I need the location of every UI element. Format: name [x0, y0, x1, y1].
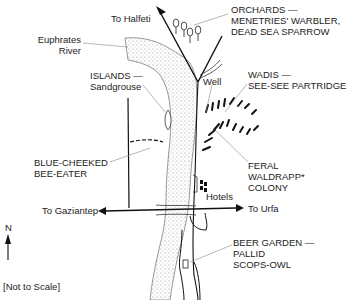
label-orchards-1: ORCHARDS —	[231, 4, 298, 15]
label-beer-garden-2: PALLID	[233, 248, 265, 259]
arrow-halfeti-icon	[156, 6, 166, 15]
label-bee-eater-2: BEE-EATER	[34, 168, 87, 179]
road-west-bank	[128, 98, 129, 208]
label-waldrapp-1: FERAL	[248, 160, 279, 171]
label-to-halfeti: To Halfeti	[111, 13, 151, 24]
island	[165, 110, 171, 130]
label-orchards-3: DEAD SEA SPARROW	[231, 26, 330, 37]
wadi-marks	[203, 98, 258, 150]
label-scale-note: [Not to Scale]	[3, 281, 60, 292]
label-river-1: Euphrates	[34, 34, 81, 45]
label-hotels: Hotels	[206, 191, 233, 202]
label-waldrapp-2: WALDRAPP*	[248, 171, 305, 182]
label-to-gaziantep: To Gaziantep	[42, 205, 98, 216]
label-north: N	[5, 222, 12, 233]
label-river-2: River	[34, 45, 81, 56]
label-wadis-2: SEE-SEE PARTRIDGE	[248, 80, 346, 91]
orchard-tree-icons	[173, 19, 201, 43]
label-bee-eater-1: BLUE-CHEEKED	[34, 157, 108, 168]
cliff-dashed	[130, 140, 163, 142]
beer-garden-building	[183, 260, 188, 268]
north-arrow-icon	[5, 234, 11, 244]
label-beer-garden-1: BEER GARDEN —	[233, 237, 314, 248]
label-islands-1: ISLANDS —	[90, 70, 143, 81]
arrow-gaziantep-icon	[98, 207, 106, 215]
label-wadis-1: WADIS —	[248, 69, 291, 80]
label-well: Well	[203, 76, 221, 87]
road-loop	[190, 213, 207, 230]
arrow-urfa-icon	[236, 204, 244, 212]
label-beer-garden-3: SCOPS-OWL	[233, 259, 291, 270]
label-waldrapp-3: COLONY	[248, 182, 288, 193]
label-islands-2: Sandgrouse	[90, 81, 141, 92]
label-orchards-2: MENETRIES' WARBLER,	[231, 15, 340, 26]
label-to-urfa: To Urfa	[248, 203, 279, 214]
